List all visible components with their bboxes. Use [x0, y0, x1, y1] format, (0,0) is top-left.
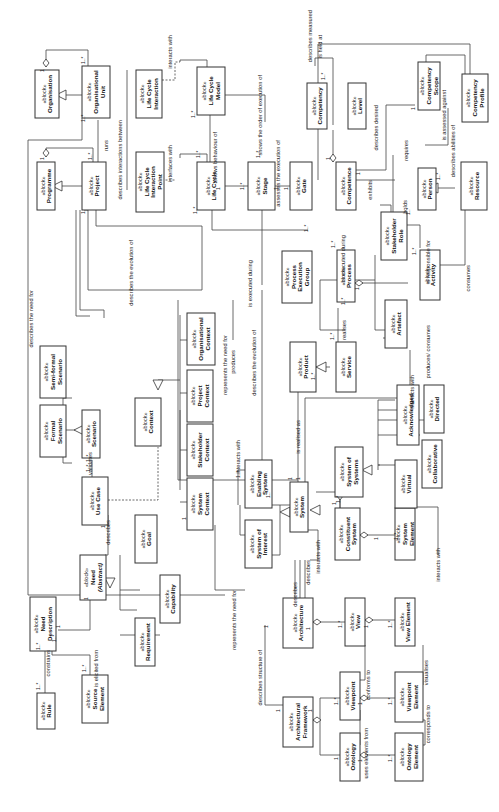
multiplicity-label: 1	[357, 759, 363, 762]
multiplicity-label: 1..*	[335, 495, 341, 503]
block-enabling-system: «block»EnablingSystem	[245, 460, 272, 508]
block-name: Service	[345, 355, 352, 378]
multiplicity-label: 1..*	[265, 490, 271, 498]
block-system: «block»System	[290, 482, 308, 532]
block-name: Profile	[478, 88, 485, 108]
aggregation-diamond-view	[365, 617, 373, 623]
block-name: Context	[203, 384, 210, 407]
multiplicity-label: 1..*	[333, 697, 339, 705]
multiplicity-label: 1..*	[81, 664, 87, 672]
block-name: System	[298, 495, 305, 518]
block-name: Viewpoint	[349, 681, 356, 710]
multiplicity-label: 1..*	[85, 454, 91, 462]
generalisation-triangle-product	[316, 362, 326, 372]
block-viewpoint: «block»Viewpoint	[340, 672, 360, 720]
relationship-label-interacts-with: interacts with	[167, 35, 173, 69]
block-name: Person	[426, 178, 433, 199]
relationship-label-is-elicited-from: is elicited from	[93, 650, 99, 687]
relationship-label-exhibits: exhibits	[367, 180, 373, 200]
relationship-label-uses-elements-from: uses elements from	[363, 728, 369, 779]
relationship-label-is-executed-during-1: is executed during	[247, 260, 253, 307]
multiplicity-label: 1..*	[255, 150, 261, 158]
relationship-label-runs: runs	[103, 140, 109, 151]
block-name: Architecture	[297, 604, 304, 641]
block-name: View	[354, 615, 361, 629]
generalisation-triangle-context	[153, 380, 163, 390]
block-context: «block»Context	[135, 398, 161, 446]
relationship-label-is-executed-during-2: is executed during	[340, 235, 346, 282]
multiplicity-label: 1..*	[303, 224, 309, 232]
block-viewpoint-element: «block»ViewpointElement	[395, 672, 423, 722]
block-name: Product	[302, 355, 309, 378]
block-programme: «block»Programme	[37, 162, 55, 210]
multiplicity-label: 1	[273, 187, 279, 190]
block-name: Project	[93, 176, 100, 197]
block-product: «block»Product	[290, 342, 316, 392]
block-name: Competency	[316, 87, 323, 125]
block-note: (Abstract)	[96, 563, 103, 592]
relationship-label-consumes: consumes	[465, 265, 471, 292]
sysml-block-diagram: «block»Organisation«block»Organisational…	[0, 0, 499, 812]
relationship-label-shows-order: shows the order of execution of	[257, 75, 263, 156]
generalisation-triangle-system-2	[310, 505, 320, 515]
block-name: Resource	[473, 171, 480, 200]
relationship-label-represents-need-for-2: represents the need for	[231, 590, 237, 650]
multiplicity-label: 1..*	[310, 372, 316, 380]
block-name: Competence	[345, 167, 352, 205]
multiplicity-label: 1..*	[80, 114, 86, 122]
multiplicity-label: 1	[39, 69, 45, 72]
block-semi-formal-scenario: «block»Semi-formalScenario	[40, 346, 66, 398]
relationship-label-is-held-at: is held at	[317, 35, 323, 59]
block-name: Level	[356, 98, 363, 114]
aggregation-diamond-organisation	[43, 59, 49, 67]
block-constituent-system: «block»ConstituentSystem	[335, 508, 360, 560]
block-competency-scope: «block»CompetencyScope	[418, 62, 440, 110]
multiplicity-label: 1	[80, 211, 86, 214]
multiplicity-label: 1	[354, 287, 360, 290]
block-name: Use Case	[94, 487, 101, 515]
relationship-label-assesses: assesses the execution of	[275, 140, 281, 207]
block-system-of-interest: «block»System ofInterest	[245, 520, 272, 568]
multiplicity-label: 1..*	[337, 620, 343, 628]
relationship-label-is-realised-as: is realised as	[295, 420, 301, 454]
block-formal-scenario: «block»FormalScenario	[40, 405, 66, 457]
block-name: Element	[412, 745, 419, 769]
block-use-case: «block»Use Case	[82, 477, 108, 525]
relationship-label-produces-consumes: produces/ consumes	[425, 325, 431, 379]
block-competency-profile: «block»CompetencyProfile	[462, 74, 488, 122]
multiplicity-label: 1	[333, 757, 339, 760]
block-gate: «block»Gate	[290, 162, 312, 210]
block-name: Role	[397, 229, 404, 243]
block-name: Rule	[45, 704, 52, 718]
multiplicity-label: 1..*	[235, 470, 241, 478]
block-life-cycle-interaction: «block»Life CycleInteraction	[136, 70, 162, 118]
block-name: Element	[412, 685, 419, 709]
relationship-label-describes-need-for: describes the need for	[28, 290, 34, 347]
block-collaborative: «block»Collaborative	[422, 440, 442, 488]
block-name: Virtual	[405, 474, 412, 493]
block-name: Element	[98, 687, 105, 711]
relationship-label-describes-measured: describes measured	[307, 10, 313, 62]
block-name: Collaborative	[431, 444, 438, 484]
block-stakeholder-role: «block»StakeholderRole	[381, 212, 407, 260]
relationship-label-interfaces-with: interfaces with	[167, 145, 173, 182]
relationship-label-interacts-with-5: interacts with	[435, 548, 441, 582]
block-name: Requirement	[144, 623, 151, 661]
block-name: Context	[204, 327, 211, 350]
relationship-label-describes-evolution-1: describes the evolution of	[128, 240, 134, 306]
block-ontology: «block»Ontology	[340, 733, 360, 781]
block-service: «block»Service	[336, 342, 356, 392]
multiplicity-label: 1	[325, 157, 331, 160]
block-stage: «block»Stage	[248, 162, 275, 210]
relationship-label-interacts-with-3: interacts with	[235, 440, 241, 474]
aggregation-diamond-architecture	[313, 619, 321, 625]
relationship-label-describes-1: describes	[105, 520, 111, 545]
multiplicity-label: 1	[410, 107, 416, 110]
multiplicity-label: 1..*	[85, 464, 91, 472]
relationship-label-conforms-to: conforms to	[365, 670, 371, 700]
block-competency: «block»Competency	[307, 83, 327, 129]
multiplicity-label: 1..*	[35, 642, 41, 650]
multiplicity-label: 1..*	[435, 172, 441, 180]
block-acknowledged: «block»Acknowledged	[397, 385, 419, 445]
multiplicity-label: 1	[357, 702, 363, 705]
